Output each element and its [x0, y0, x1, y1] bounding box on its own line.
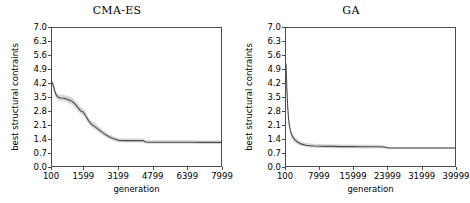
y-tick-label: 2.1 [255, 121, 281, 130]
x-tick-mark [153, 167, 154, 170]
y-tick-label: 7.0 [255, 23, 281, 32]
x-tick-label: 7999 [308, 172, 330, 181]
x-tick-label: 100 [277, 172, 293, 181]
y-tick-label: 7.0 [21, 23, 47, 32]
y-tick-label: 2.8 [21, 107, 47, 116]
x-tick-label: 4799 [142, 172, 164, 181]
x-tick-mark [353, 167, 354, 170]
x-tick-mark [222, 167, 223, 170]
x-tick-mark [118, 167, 119, 170]
x-tick-mark [51, 167, 52, 170]
y-axis-label-ga: best structural contraints [244, 27, 254, 167]
y-axis-label-cma-es: best structural contraints [10, 27, 20, 167]
confidence-band-ga [286, 61, 456, 149]
x-axis-label-cma-es: generation [51, 184, 222, 194]
y-tick-label: 0.7 [255, 149, 281, 158]
y-tick-label: 5.6 [255, 51, 281, 60]
y-tick-label: 4.9 [255, 65, 281, 74]
x-tick-label: 100 [43, 172, 59, 181]
y-tick-label: 5.6 [21, 51, 47, 60]
panel-title-ga: GA [234, 4, 468, 17]
y-tick-label: 4.2 [255, 79, 281, 88]
x-tick-mark [83, 167, 84, 170]
y-tick-label: 1.4 [21, 135, 47, 144]
x-tick-mark [319, 167, 320, 170]
x-tick-mark [422, 167, 423, 170]
y-tick-label: 1.4 [255, 135, 281, 144]
plot-area-ga [285, 27, 456, 167]
x-tick-label: 15999 [340, 172, 367, 181]
y-tick-label: 0.7 [21, 149, 47, 158]
y-tick-label: 6.3 [21, 37, 47, 46]
panel-ga: GA best structural contraints 0.00.71.42… [234, 0, 468, 203]
plot-area-cma-es [51, 27, 222, 167]
panel-cma-es: CMA-ES best structural contraints 0.00.7… [0, 0, 234, 203]
y-tick-label: 2.8 [255, 107, 281, 116]
x-tick-label: 31999 [408, 172, 435, 181]
series-plot-ga [286, 28, 456, 167]
x-axis-label-ga: generation [285, 184, 456, 194]
x-tick-label: 23999 [374, 172, 401, 181]
y-tick-label: 4.9 [21, 65, 47, 74]
mean-line-cma-es [52, 82, 222, 142]
x-tick-mark [387, 167, 388, 170]
x-tick-label: 3199 [107, 172, 129, 181]
x-tick-label: 7999 [211, 172, 233, 181]
y-tick-label: 4.2 [21, 79, 47, 88]
y-tick-label: 6.3 [255, 37, 281, 46]
x-tick-label: 1599 [73, 172, 95, 181]
y-tick-label: 3.5 [21, 93, 47, 102]
panel-title-cma-es: CMA-ES [0, 4, 234, 17]
x-tick-label: 6399 [177, 172, 199, 181]
y-tick-label: 3.5 [255, 93, 281, 102]
x-tick-label: 39999 [442, 172, 469, 181]
confidence-band-cma-es [52, 80, 222, 144]
mean-line-ga [286, 64, 456, 148]
x-tick-mark [187, 167, 188, 170]
x-tick-mark [285, 167, 286, 170]
y-tick-label: 2.1 [21, 121, 47, 130]
series-plot-cma-es [52, 28, 222, 167]
x-tick-mark [456, 167, 457, 170]
